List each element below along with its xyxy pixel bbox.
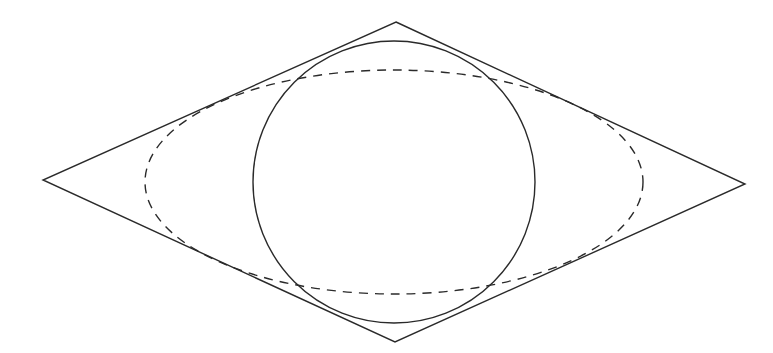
diagram-canvas [0, 0, 773, 353]
dashed-ellipse [145, 70, 643, 294]
inscribed-circle [253, 41, 535, 323]
